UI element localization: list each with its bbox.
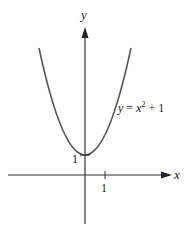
y-intercept-label: 1 xyxy=(72,152,78,166)
x-tick-label: 1 xyxy=(101,181,107,195)
x-axis-label: x xyxy=(173,167,180,182)
y-axis-arrow-icon xyxy=(82,27,89,38)
parabola-graph: y x 1 1 y = x2 + 1 xyxy=(0,0,186,226)
equation-label: y = x2 + 1 xyxy=(117,100,164,115)
y-axis-label: y xyxy=(79,7,87,22)
x-axis-arrow-icon xyxy=(161,172,172,179)
